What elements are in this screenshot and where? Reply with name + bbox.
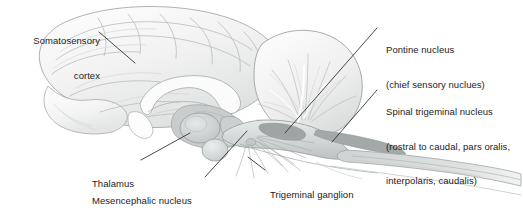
- label-somatosensory-cortex-line2: cortex: [8, 70, 100, 82]
- label-spinal-trigeminal-nucleus: Spinal trigeminal nucleus (rostral to ca…: [386, 83, 510, 208]
- label-mesencephalic-nucleus: Mesencephalic nucleus: [92, 172, 192, 208]
- thalamus: [180, 113, 220, 143]
- label-somatosensory-cortex: Somatosensory cortex: [8, 12, 100, 104]
- label-spinal-trigeminal-nucleus-line2: (rostral to caudal, pars oralis,: [386, 141, 510, 153]
- label-somatosensory-cortex-line1: Somatosensory: [8, 35, 100, 47]
- figure-trigeminal-pathway: Somatosensory cortex Pontine nucleus (ch…: [0, 0, 523, 208]
- label-trigeminal-ganglion-line1: Trigeminal ganglion: [270, 189, 354, 201]
- label-pontine-nucleus-line1: Pontine nucleus: [386, 44, 485, 56]
- trigeminal-ganglion: [246, 139, 256, 146]
- label-trigeminal-ganglion: Trigeminal ganglion: [270, 166, 354, 208]
- label-mesencephalic-nucleus-line1: Mesencephalic nucleus: [92, 195, 192, 207]
- label-spinal-trigeminal-nucleus-line3: interpolaris, caudalis): [386, 175, 510, 187]
- label-spinal-trigeminal-nucleus-line1: Spinal trigeminal nucleus: [386, 106, 510, 118]
